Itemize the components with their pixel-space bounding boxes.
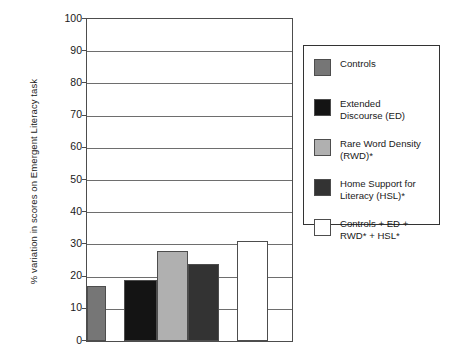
y-axis-tick-label: 0: [48, 335, 82, 346]
legend-item-label: Controls: [340, 58, 376, 70]
legend-swatch-icon: [314, 219, 331, 236]
bar: [124, 280, 157, 341]
gridline: [87, 212, 292, 213]
bar-chart: % variation in scores on Emergent Litera…: [0, 0, 454, 363]
y-axis-tick-label: 60: [48, 141, 82, 152]
legend-swatch-icon: [314, 179, 331, 196]
legend-item[interactable]: Extended Discourse (ED): [314, 98, 405, 121]
legend-item-label: Extended Discourse (ED): [340, 98, 405, 121]
y-axis-title: % variation in scores on Emergent Litera…: [28, 27, 39, 337]
gridline: [87, 180, 292, 181]
legend-swatch-icon: [314, 139, 331, 156]
gridline: [87, 51, 292, 52]
legend-item[interactable]: Controls + ED + RWD* + HSL*: [314, 218, 408, 241]
bar: [87, 286, 106, 341]
legend-item[interactable]: Home Support for Literacy (HSL)*: [314, 178, 416, 201]
y-axis-tick-label: 10: [48, 302, 82, 313]
legend-item-label: Home Support for Literacy (HSL)*: [340, 178, 416, 201]
gridline: [87, 83, 292, 84]
legend-item[interactable]: Controls: [314, 58, 376, 76]
bar: [157, 251, 188, 341]
y-axis-tick-label: 40: [48, 206, 82, 217]
legend-item-label: Controls + ED + RWD* + HSL*: [340, 218, 408, 241]
legend-swatch-icon: [314, 99, 331, 116]
y-axis-tick-label: 50: [48, 174, 82, 185]
y-axis-tick-label: 70: [48, 109, 82, 120]
y-axis-tick-label: 30: [48, 238, 82, 249]
gridline: [87, 148, 292, 149]
legend-item-label: Rare Word Density (RWD)*: [340, 138, 421, 161]
gridline: [87, 116, 292, 117]
legend-swatch-icon: [314, 59, 331, 76]
y-axis-tick-labels: 1009080706050403020100: [42, 18, 82, 340]
plot-area: [86, 18, 293, 342]
bar: [237, 241, 268, 341]
bar: [188, 264, 219, 341]
y-axis-tick-label: 100: [48, 13, 82, 24]
legend-item[interactable]: Rare Word Density (RWD)*: [314, 138, 421, 161]
y-axis-tick-label: 20: [48, 270, 82, 281]
y-axis-tick-label: 80: [48, 77, 82, 88]
y-axis-tick-label: 90: [48, 45, 82, 56]
legend: ControlsExtended Discourse (ED)Rare Word…: [303, 45, 440, 225]
